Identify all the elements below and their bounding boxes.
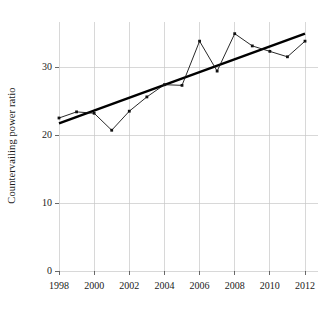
data-point-marker — [251, 45, 254, 48]
x-tick-label: 2004 — [154, 280, 174, 291]
data-point-marker — [75, 110, 78, 113]
chart-container: Countervailing power ratio 0102030 19982… — [0, 0, 326, 311]
data-point-marker — [93, 112, 96, 115]
y-tick-label: 20 — [42, 129, 52, 140]
y-axis-tick-labels: 0102030 — [42, 61, 52, 276]
x-tick-label: 2012 — [295, 280, 315, 291]
data-point-marker — [128, 110, 131, 113]
horizontal-gridlines — [59, 67, 318, 271]
data-point-marker — [198, 40, 201, 43]
x-tick-label: 2006 — [190, 280, 210, 291]
data-point-marker — [58, 117, 61, 120]
x-tick-label: 2008 — [225, 280, 245, 291]
data-point-marker — [110, 129, 113, 132]
data-point-marker — [286, 55, 289, 58]
y-tick-label: 30 — [42, 61, 52, 72]
data-point-marker — [304, 40, 307, 43]
x-tick-label: 2000 — [84, 280, 104, 291]
data-point-marker — [233, 32, 236, 35]
data-point-marker — [145, 96, 148, 99]
x-axis-tickmarks — [59, 271, 305, 275]
x-tick-label: 1998 — [49, 280, 69, 291]
data-point-marker — [181, 84, 184, 87]
vertical-gridlines — [59, 22, 305, 271]
chart-plot-area: 0102030 19982000200220042006200820102012 — [0, 0, 326, 311]
trend-line — [59, 34, 305, 124]
data-point-marker — [268, 50, 271, 53]
y-tick-label: 10 — [42, 197, 52, 208]
x-tick-label: 2010 — [260, 280, 280, 291]
y-axis-tickmarks — [55, 67, 59, 271]
x-axis-tick-labels: 19982000200220042006200820102012 — [49, 280, 315, 291]
data-point-marker — [163, 83, 166, 86]
y-tick-label: 0 — [47, 265, 52, 276]
trend-line-path — [59, 34, 305, 124]
x-tick-label: 2002 — [119, 280, 139, 291]
data-point-marker — [216, 70, 219, 73]
